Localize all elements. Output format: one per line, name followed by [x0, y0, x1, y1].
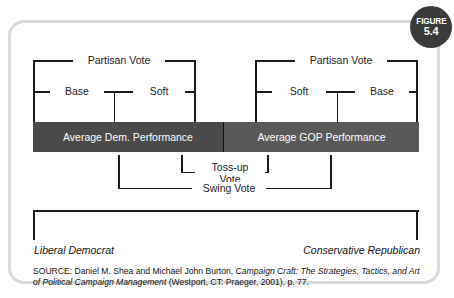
- left-base-label: Base: [50, 85, 104, 97]
- right-soft-base-divider-tick: [337, 91, 339, 122]
- figure-badge-number: 5.4: [424, 26, 439, 37]
- left-base-soft-divider-tick: [114, 91, 116, 122]
- tossup-vote-label-line1: Toss-up: [212, 161, 249, 173]
- figure-container: FIGURE 5.4 Partisan Vote Base Soft Parti…: [0, 0, 454, 298]
- swing-bracket-right-arm: [330, 155, 332, 189]
- average-dem-performance-segment: Average Dem. Performance: [33, 122, 224, 152]
- bracket-diagram: Partisan Vote Base Soft Partisan Vote So…: [0, 0, 454, 298]
- left-soft-label: Soft: [133, 85, 185, 97]
- tossup-bracket-left-arm: [181, 155, 183, 173]
- axis-right-endpoint-label: Conservative Republican: [303, 244, 420, 256]
- source-suffix: (Westport, CT: Praeger, 2001), p. 77.: [166, 277, 309, 287]
- axis-left-endpoint-label: Liberal Democrat: [34, 244, 114, 256]
- average-gop-performance-label: Average GOP Performance: [257, 131, 385, 143]
- swing-vote-label: Swing Vote: [192, 182, 266, 194]
- figure-number-badge: FIGURE 5.4: [410, 6, 452, 48]
- axis-bracket-top: [33, 210, 419, 212]
- source-note: SOURCE: Daniel M. Shea and Michael John …: [33, 266, 425, 289]
- figure-badge-word: FIGURE: [416, 17, 446, 26]
- right-partisan-vote-label: Partisan Vote: [295, 54, 387, 66]
- swing-bracket-left-arm: [118, 155, 120, 189]
- tossup-bracket-right-arm: [267, 155, 269, 173]
- source-prefix: SOURCE: Daniel M. Shea and Michael John …: [33, 266, 236, 276]
- axis-bracket-left-arm: [33, 210, 35, 240]
- average-dem-performance-label: Average Dem. Performance: [63, 131, 193, 143]
- right-base-label: Base: [355, 85, 409, 97]
- average-gop-performance-segment: Average GOP Performance: [224, 122, 419, 152]
- axis-bracket-right-arm: [416, 210, 418, 240]
- performance-bar: Average Dem. Performance Average GOP Per…: [33, 122, 419, 152]
- right-soft-label: Soft: [272, 85, 326, 97]
- left-partisan-vote-label: Partisan Vote: [73, 54, 165, 66]
